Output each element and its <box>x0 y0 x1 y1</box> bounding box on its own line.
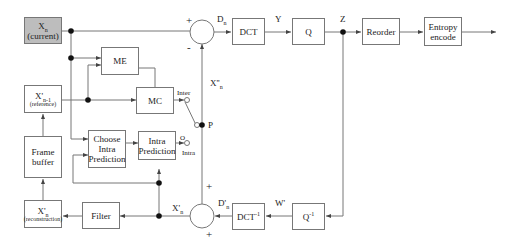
mc-label: MC <box>148 96 162 106</box>
p-label: P <box>208 120 213 130</box>
xn-prime-label: X'n <box>172 203 183 213</box>
z-label: Z <box>340 14 346 24</box>
reconstruction-block: X'n (reconstruction) <box>24 200 62 228</box>
choose-intra-line1: Choose <box>94 134 121 144</box>
entropy-line1: Entropy <box>429 22 458 32</box>
y-label: Y <box>275 14 282 24</box>
dn-prime-label: D'n <box>218 198 229 208</box>
reference-frame-block: X'n-1 (reference) <box>24 85 62 113</box>
plus-sign-bottom-bottom: + <box>206 229 212 239</box>
inverse-dct-block: DCT-1 <box>232 203 265 230</box>
quantize-label: Q <box>305 27 312 37</box>
frame-buffer-line1: Frame <box>32 147 55 157</box>
frame-buffer-block: Frame buffer <box>24 136 62 178</box>
dn-label: Dn <box>217 14 227 24</box>
dct-block: DCT <box>232 18 265 45</box>
inverse-quantize-sup: -1 <box>309 211 314 217</box>
frame-buffer-line2: buffer <box>32 157 54 167</box>
reorder-block: Reorder <box>362 18 400 45</box>
me-block: ME <box>101 47 139 75</box>
intra-label: Intra <box>182 148 195 158</box>
filter-block: Filter <box>82 202 120 229</box>
inter-label: Inter <box>177 88 190 98</box>
inverse-dct-sup: -1 <box>255 211 260 217</box>
reorder-label: Reorder <box>367 27 396 37</box>
mc-block: MC <box>136 87 174 114</box>
intra-prediction-line2: Prediction <box>139 146 176 156</box>
xn-double-prime-label: X''n <box>210 78 223 88</box>
dct-label: DCT <box>240 27 258 37</box>
reference-frame-caption: (reference) <box>30 101 56 108</box>
quantize-block: Q <box>292 18 325 45</box>
me-label: ME <box>113 56 127 66</box>
choose-intra-line3: Prediction <box>89 154 126 164</box>
inverse-dct-label: DCT <box>237 212 255 222</box>
inverse-quantize-block: Q-1 <box>292 203 325 230</box>
w-prime-label: W' <box>275 198 285 208</box>
current-frame-caption: (current) <box>27 31 58 41</box>
filter-label: Filter <box>91 211 111 221</box>
minus-sign-top: - <box>187 42 191 52</box>
o-label: O <box>180 133 185 143</box>
choose-intra-block: Choose Intra Prediction <box>88 130 126 168</box>
reconstruction-caption: (reconstruction) <box>24 216 62 223</box>
current-frame-block: Xn (current) <box>24 17 62 44</box>
plus-sign-top: + <box>186 15 192 25</box>
intra-prediction-line1: Intra <box>149 136 166 146</box>
reconstruction-label: X' <box>37 206 45 216</box>
choose-intra-line2: Intra <box>99 144 116 154</box>
entropy-encode-block: Entropy encode <box>424 17 462 46</box>
entropy-line2: encode <box>430 32 455 42</box>
reference-frame-label: X' <box>35 91 43 101</box>
intra-prediction-block: Intra Prediction <box>138 131 176 160</box>
plus-sign-bottom-top: + <box>206 181 212 191</box>
